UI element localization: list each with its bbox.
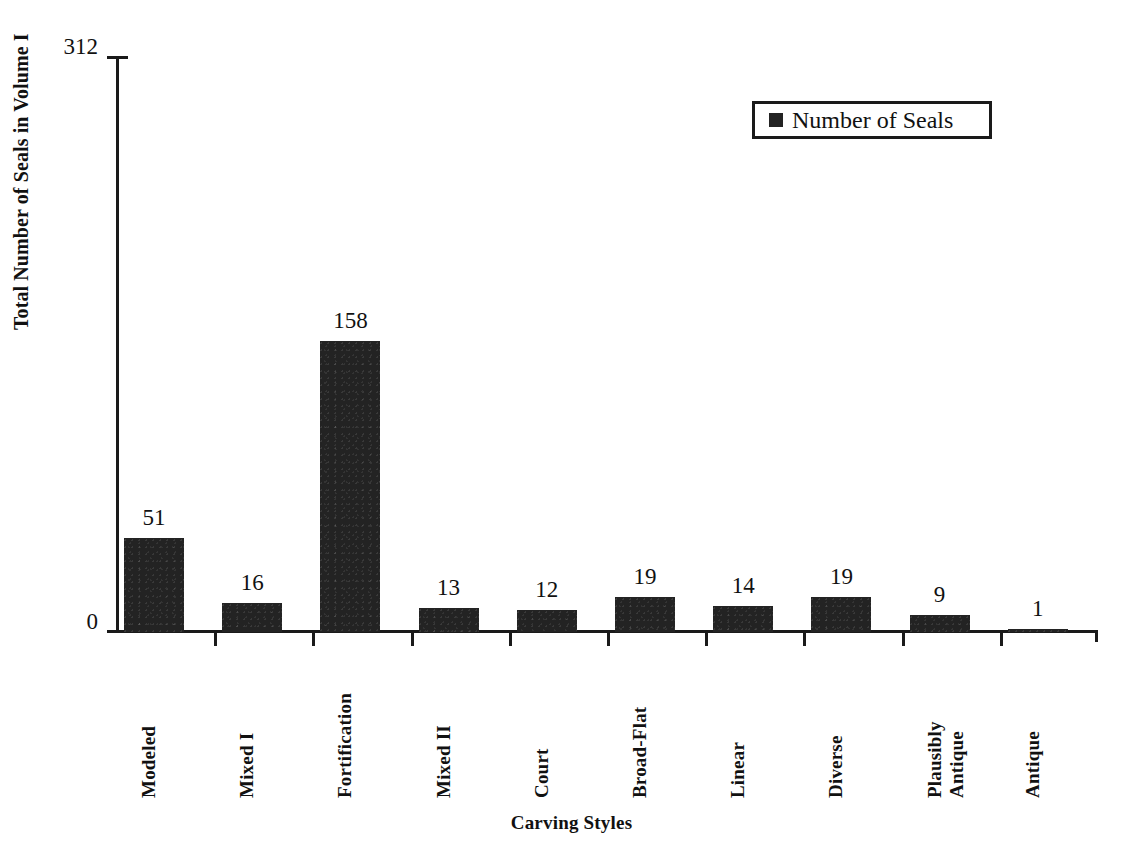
bar[interactable]	[811, 597, 871, 632]
bar[interactable]	[517, 610, 577, 632]
bar-chart: Total Number of Seals in Volume I 312 0 …	[0, 0, 1143, 867]
y-axis-label-min: 0	[0, 609, 98, 635]
x-axis-category-label: Modeled	[138, 726, 160, 798]
x-axis-title: Carving Styles	[0, 812, 1143, 834]
bar-value-label: 13	[399, 575, 499, 601]
x-axis-category-label: Antique	[946, 731, 968, 798]
bar-value-label: 9	[890, 582, 990, 608]
bar-value-label: 16	[202, 570, 302, 596]
x-axis-tick	[214, 633, 217, 646]
x-axis-category-label: Fortification	[334, 693, 356, 798]
bar-value-label: 1	[988, 596, 1088, 622]
bar[interactable]	[320, 341, 380, 632]
bar[interactable]	[419, 608, 479, 632]
x-axis-category-label: Mixed II	[433, 725, 455, 798]
x-axis-category-label: Antique	[1022, 731, 1044, 798]
bar[interactable]	[124, 538, 184, 632]
x-axis-category-label: Diverse	[825, 735, 847, 798]
legend-entry-label: Number of Seals	[792, 108, 953, 132]
x-axis-tick	[1000, 633, 1003, 646]
x-axis-category-label: Plausibly	[924, 721, 946, 798]
bar-value-label: 14	[693, 573, 793, 599]
bar[interactable]	[910, 615, 970, 632]
bar-value-label: 51	[104, 505, 204, 531]
bar-value-label: 158	[300, 308, 400, 334]
legend[interactable]: Number of Seals	[752, 101, 992, 139]
bar[interactable]	[1008, 629, 1068, 632]
x-axis-tick	[803, 633, 806, 646]
x-axis-tick	[509, 633, 512, 646]
x-axis-tick	[705, 633, 708, 646]
y-axis-label-max: 312	[0, 34, 98, 60]
x-axis-category-label: Linear	[727, 742, 749, 798]
plot-area	[116, 57, 1098, 632]
bar[interactable]	[615, 597, 675, 632]
x-axis-tick	[607, 633, 610, 646]
x-axis-category-label: Broad-Flat	[629, 707, 651, 798]
bar-value-label: 12	[497, 577, 597, 603]
x-axis-tick	[411, 633, 414, 646]
bar[interactable]	[222, 603, 282, 632]
legend-marker-icon	[769, 113, 783, 127]
bar-value-label: 19	[595, 564, 695, 590]
x-axis-tick	[902, 633, 905, 646]
x-axis-tick	[312, 633, 315, 646]
bar[interactable]	[713, 606, 773, 632]
bar-value-label: 19	[791, 564, 891, 590]
x-axis-category-label: Mixed I	[236, 733, 258, 798]
x-axis-category-label: Court	[531, 748, 553, 798]
